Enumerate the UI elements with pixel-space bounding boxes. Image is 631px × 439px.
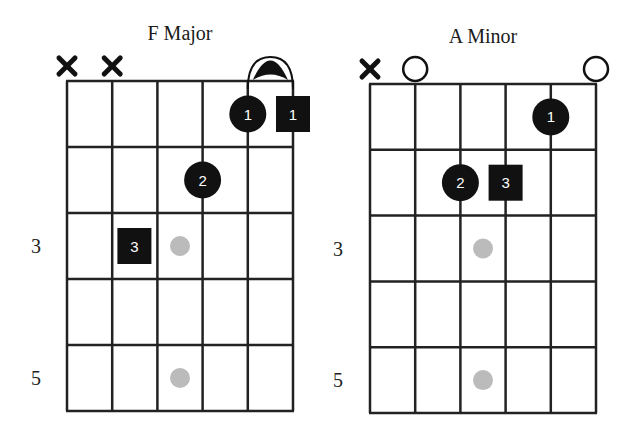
open-string-icon	[403, 57, 427, 81]
finger-number: 3	[130, 238, 138, 255]
barre-arc-fill	[253, 61, 288, 81]
chord-diagram-a-minor: A Minor 35123	[333, 25, 608, 413]
fret-inlay-marker	[473, 239, 493, 259]
finger-dot-circle: 1	[229, 96, 266, 133]
chord-diagrams-svg: F Major 351123 A Minor 35123	[0, 0, 631, 439]
finger-dot-circle: 1	[532, 98, 569, 135]
fret-number-label: 5	[31, 367, 41, 389]
chord-diagrams-canvas: F Major 351123 A Minor 35123	[0, 0, 631, 439]
fret-inlay-marker	[170, 236, 190, 256]
muted-string-icon	[104, 58, 120, 74]
finger-number: 1	[289, 106, 297, 123]
finger-dot-circle: 2	[184, 162, 221, 199]
chord-diagram-f-major: F Major 351123	[31, 22, 310, 411]
finger-number: 3	[501, 174, 509, 191]
fret-number-label: 3	[333, 238, 343, 260]
chord-title: F Major	[148, 22, 213, 45]
open-string-icon	[584, 57, 608, 81]
fret-number-label: 5	[333, 369, 343, 391]
finger-dot-square: 3	[117, 228, 151, 264]
finger-dot-square: 1	[276, 96, 310, 132]
finger-dot-circle: 2	[442, 164, 479, 201]
muted-string-icon	[59, 58, 75, 74]
finger-number: 1	[547, 108, 555, 125]
chord-title: A Minor	[449, 25, 518, 47]
finger-number: 1	[244, 106, 252, 123]
finger-dot-square: 3	[489, 165, 523, 201]
muted-string-icon	[362, 61, 378, 77]
fret-inlay-marker	[473, 370, 493, 390]
fret-number-label: 3	[31, 235, 41, 257]
finger-number: 2	[198, 172, 206, 189]
finger-number: 2	[456, 174, 464, 191]
fret-inlay-marker	[170, 368, 190, 388]
